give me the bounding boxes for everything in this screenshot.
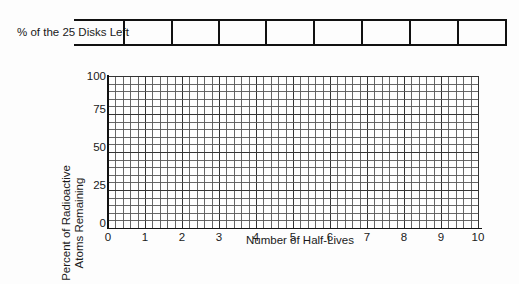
y-tick-25: 25 bbox=[82, 179, 106, 191]
table-cell-2[interactable] bbox=[173, 21, 218, 44]
disks-left-table: % of the 25 Disks Left bbox=[0, 0, 519, 60]
table-cell-8[interactable] bbox=[459, 21, 505, 44]
table-cell-7[interactable] bbox=[411, 21, 457, 44]
table-cell-1[interactable] bbox=[125, 21, 171, 44]
x-tick-9: 9 bbox=[431, 231, 451, 243]
half-life-graph: Percent of Radioactive Atoms Remaining 0… bbox=[0, 60, 519, 267]
x-tick-0: 0 bbox=[98, 231, 118, 243]
x-axis-title: Number of Half-Lives bbox=[200, 234, 400, 246]
table-right-border bbox=[505, 20, 507, 46]
x-tick-2: 2 bbox=[172, 231, 192, 243]
y-tick-100: 100 bbox=[82, 70, 106, 82]
table-cell-5[interactable] bbox=[315, 21, 361, 44]
table-cell-6[interactable] bbox=[363, 21, 409, 44]
x-tick-10: 10 bbox=[468, 231, 488, 243]
table-cell-4[interactable] bbox=[267, 21, 313, 44]
table-cell-3[interactable] bbox=[220, 21, 265, 44]
table-row-label: % of the 25 Disks Left bbox=[17, 24, 129, 40]
y-tick-75: 75 bbox=[82, 103, 106, 115]
table-bottom-border bbox=[74, 44, 507, 46]
y-tick-50: 50 bbox=[82, 141, 106, 153]
y-tick-0: 0 bbox=[82, 217, 106, 229]
y-axis-title-line-1: Percent of Radioactive bbox=[60, 165, 73, 281]
x-tick-1: 1 bbox=[135, 231, 155, 243]
